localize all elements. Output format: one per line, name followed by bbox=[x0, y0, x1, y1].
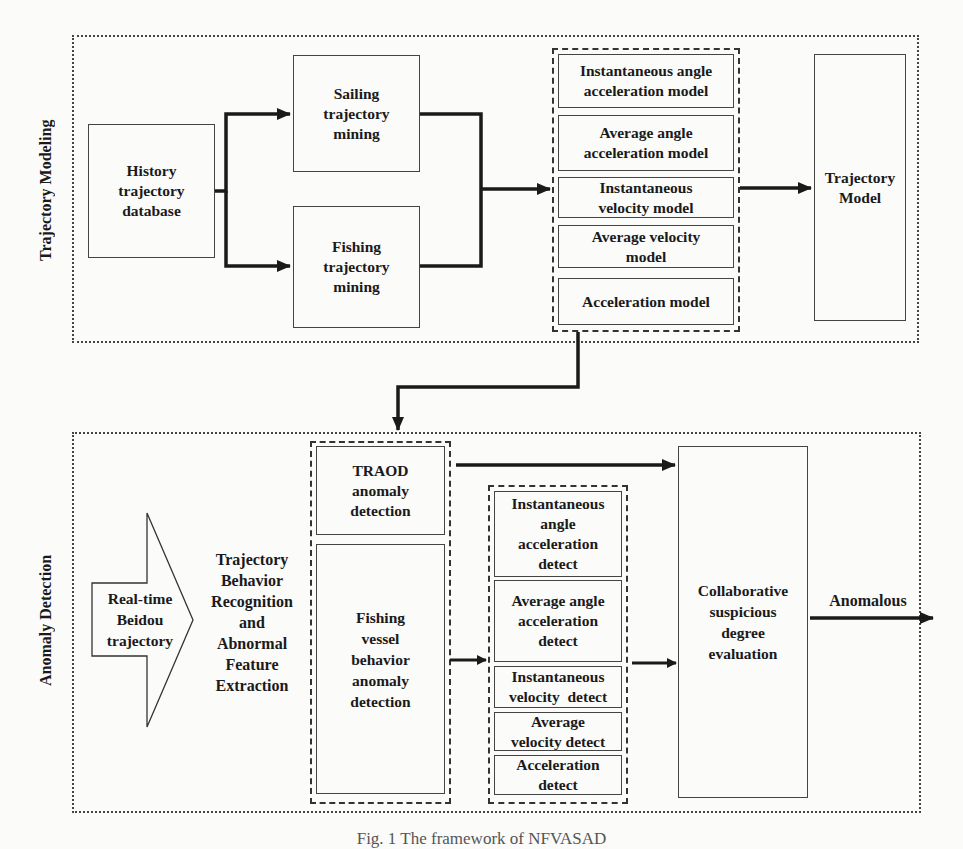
traod-text: TRAOD anomaly detection bbox=[350, 461, 410, 521]
model-text: Average angle acceleration model bbox=[584, 123, 708, 163]
history-trajectory-database-box: History trajectory database bbox=[88, 124, 215, 258]
instantaneous-angle-acceleration-detect-box: Instantaneous angle acceleration detect bbox=[494, 491, 622, 577]
trajectory-model-text: Trajectory Model bbox=[825, 168, 895, 208]
realtime-beidou-trajectory-text: Real-time Beidou trajectory bbox=[92, 588, 188, 651]
sailing-trajectory-mining-box: Sailing trajectory mining bbox=[293, 55, 420, 172]
history-trajectory-database-text: History trajectory database bbox=[118, 161, 184, 221]
anomaly-detection-label: Anomaly Detection bbox=[34, 490, 58, 750]
fishing-trajectory-mining-box: Fishing trajectory mining bbox=[293, 206, 420, 328]
model-text: Instantaneous angle acceleration model bbox=[580, 61, 712, 101]
acceleration-model-box: Acceleration model bbox=[558, 278, 734, 325]
fishing-vessel-anomaly-detection-box: Fishing vessel behavior anomaly detectio… bbox=[316, 544, 445, 794]
sailing-trajectory-mining-text: Sailing trajectory mining bbox=[323, 84, 389, 144]
acceleration-detect-box: Acceleration detect bbox=[494, 755, 622, 795]
model-text: Acceleration model bbox=[582, 292, 710, 312]
anomalous-label: Anomalous bbox=[818, 590, 918, 611]
instantaneous-velocity-detect-box: Instantaneous velocity detect bbox=[494, 666, 622, 708]
model-text: Instantaneous velocity model bbox=[598, 178, 693, 218]
fishing-trajectory-mining-text: Fishing trajectory mining bbox=[323, 237, 389, 297]
instantaneous-velocity-model-box: Instantaneous velocity model bbox=[558, 177, 734, 218]
detect-text: Average angle acceleration detect bbox=[511, 591, 604, 651]
collaborative-evaluation-box: Collaborative suspicious degree evaluati… bbox=[678, 446, 808, 798]
average-velocity-detect-box: Average velocity detect bbox=[494, 712, 622, 751]
instantaneous-angle-acceleration-model-box: Instantaneous angle acceleration model bbox=[558, 54, 734, 108]
average-velocity-model-box: Average velocity model bbox=[558, 225, 734, 268]
fishing-vessel-text: Fishing vessel behavior anomaly detectio… bbox=[350, 607, 410, 712]
detect-text: Acceleration detect bbox=[516, 755, 600, 795]
detect-text: Instantaneous velocity detect bbox=[509, 667, 607, 707]
average-angle-acceleration-model-box: Average angle acceleration model bbox=[558, 115, 734, 171]
figure-caption: Fig. 1 The framework of NFVASAD bbox=[0, 829, 963, 849]
behavior-recognition-text: Trajectory Behavior Recognition and Abno… bbox=[200, 549, 304, 696]
trajectory-modeling-label: Trajectory Modeling bbox=[34, 60, 58, 320]
average-angle-acceleration-detect-box: Average angle acceleration detect bbox=[494, 580, 622, 662]
detect-text: Instantaneous angle acceleration detect bbox=[511, 494, 604, 574]
traod-anomaly-detection-box: TRAOD anomaly detection bbox=[316, 446, 445, 535]
detect-text: Average velocity detect bbox=[511, 712, 605, 752]
trajectory-model-box: Trajectory Model bbox=[814, 54, 906, 321]
model-text: Average velocity model bbox=[592, 227, 701, 267]
collaborative-evaluation-text: Collaborative suspicious degree evaluati… bbox=[698, 580, 788, 664]
modeling-to-detection-arrow bbox=[398, 332, 578, 430]
